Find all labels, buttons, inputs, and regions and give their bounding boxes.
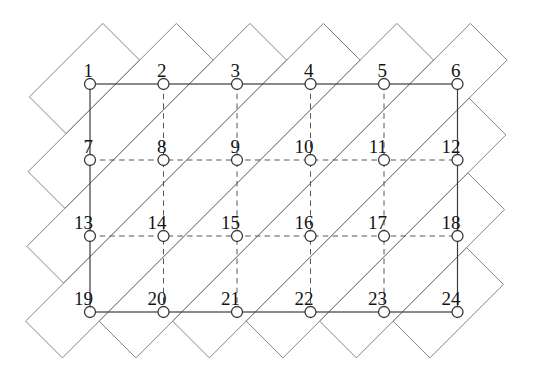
node-number-label: 9 xyxy=(231,136,241,157)
figure-background xyxy=(0,0,536,381)
node-number-label: 20 xyxy=(148,288,167,309)
figure-canvas: 123456789101112131415161718192021222324 xyxy=(0,0,536,381)
node-number-label: 14 xyxy=(148,212,168,233)
node-number-label: 6 xyxy=(451,60,461,81)
mesh-diagram: 123456789101112131415161718192021222324 xyxy=(0,0,536,381)
node-number-label: 18 xyxy=(442,212,461,233)
node-number-label: 1 xyxy=(84,60,94,81)
node-number-label: 13 xyxy=(74,212,93,233)
node-number-label: 2 xyxy=(157,60,167,81)
node-number-label: 4 xyxy=(304,60,314,81)
node-number-label: 24 xyxy=(442,288,462,309)
node-number-label: 16 xyxy=(295,212,314,233)
node-number-label: 7 xyxy=(84,136,94,157)
node-number-label: 23 xyxy=(368,288,387,309)
node-number-label: 15 xyxy=(221,212,240,233)
node-number-label: 8 xyxy=(157,136,167,157)
node-number-label: 11 xyxy=(369,136,387,157)
node-number-label: 17 xyxy=(368,212,387,233)
node-number-label: 19 xyxy=(74,288,93,309)
node-number-label: 5 xyxy=(378,60,388,81)
node-number-label: 22 xyxy=(295,288,314,309)
node-number-label: 3 xyxy=(231,60,241,81)
node-number-label: 21 xyxy=(221,288,240,309)
node-number-label: 10 xyxy=(295,136,314,157)
node-number-label: 12 xyxy=(442,136,461,157)
